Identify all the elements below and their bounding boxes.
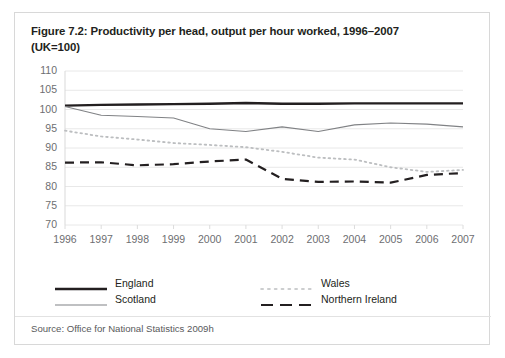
figure-title-line-2: (UK=100) — [31, 39, 475, 55]
source-note: Source: Office for National Statistics 2… — [31, 323, 214, 334]
figure-container: Figure 7.2: Productivity per head, outpu… — [14, 12, 490, 345]
chart-plot-area: 707580859095100105110 199619971998199920… — [31, 65, 475, 261]
source-divider — [15, 316, 491, 317]
x-tick-label: 1996 — [48, 233, 82, 245]
x-tick-label: 2007 — [446, 233, 480, 245]
y-tick-label: 80 — [31, 180, 57, 192]
legend-swatch-wales — [259, 283, 315, 295]
x-tick-label: 1998 — [120, 233, 154, 245]
x-tick-label: 2006 — [410, 233, 444, 245]
y-tick-label: 85 — [31, 160, 57, 172]
x-tick-label: 2005 — [374, 233, 408, 245]
figure-title-line-1: Figure 7.2: Productivity per head, outpu… — [31, 25, 399, 37]
y-tick-label: 75 — [31, 199, 57, 211]
x-tick-label: 1997 — [84, 233, 118, 245]
series-line-wales — [65, 131, 463, 172]
y-tick-label: 105 — [31, 83, 57, 95]
legend-label-northern-ireland: Northern Ireland — [321, 293, 397, 305]
y-tick-label: 70 — [31, 218, 57, 230]
legend-swatch-scotland — [53, 299, 109, 311]
y-tick-label: 90 — [31, 141, 57, 153]
series-line-england — [65, 103, 463, 106]
x-tick-label: 2001 — [229, 233, 263, 245]
line-chart-svg — [31, 65, 475, 261]
y-tick-label: 100 — [31, 103, 57, 115]
x-tick-label: 2003 — [301, 233, 335, 245]
legend-swatch-england — [53, 283, 109, 295]
figure-title: Figure 7.2: Productivity per head, outpu… — [31, 23, 475, 55]
chart-legend: England Scotland Wales Northern Ireland — [31, 275, 475, 315]
y-tick-label: 95 — [31, 122, 57, 134]
x-tick-label: 2000 — [193, 233, 227, 245]
series-line-northern-ireland — [65, 160, 463, 183]
series-line-scotland — [65, 106, 463, 131]
legend-label-scotland: Scotland — [115, 293, 156, 305]
y-tick-label: 110 — [31, 64, 57, 76]
x-tick-label: 2004 — [337, 233, 371, 245]
x-tick-label: 1999 — [157, 233, 191, 245]
x-tick-label: 2002 — [265, 233, 299, 245]
legend-label-england: England — [115, 277, 154, 289]
legend-label-wales: Wales — [321, 277, 350, 289]
legend-swatch-northern-ireland — [259, 299, 315, 311]
